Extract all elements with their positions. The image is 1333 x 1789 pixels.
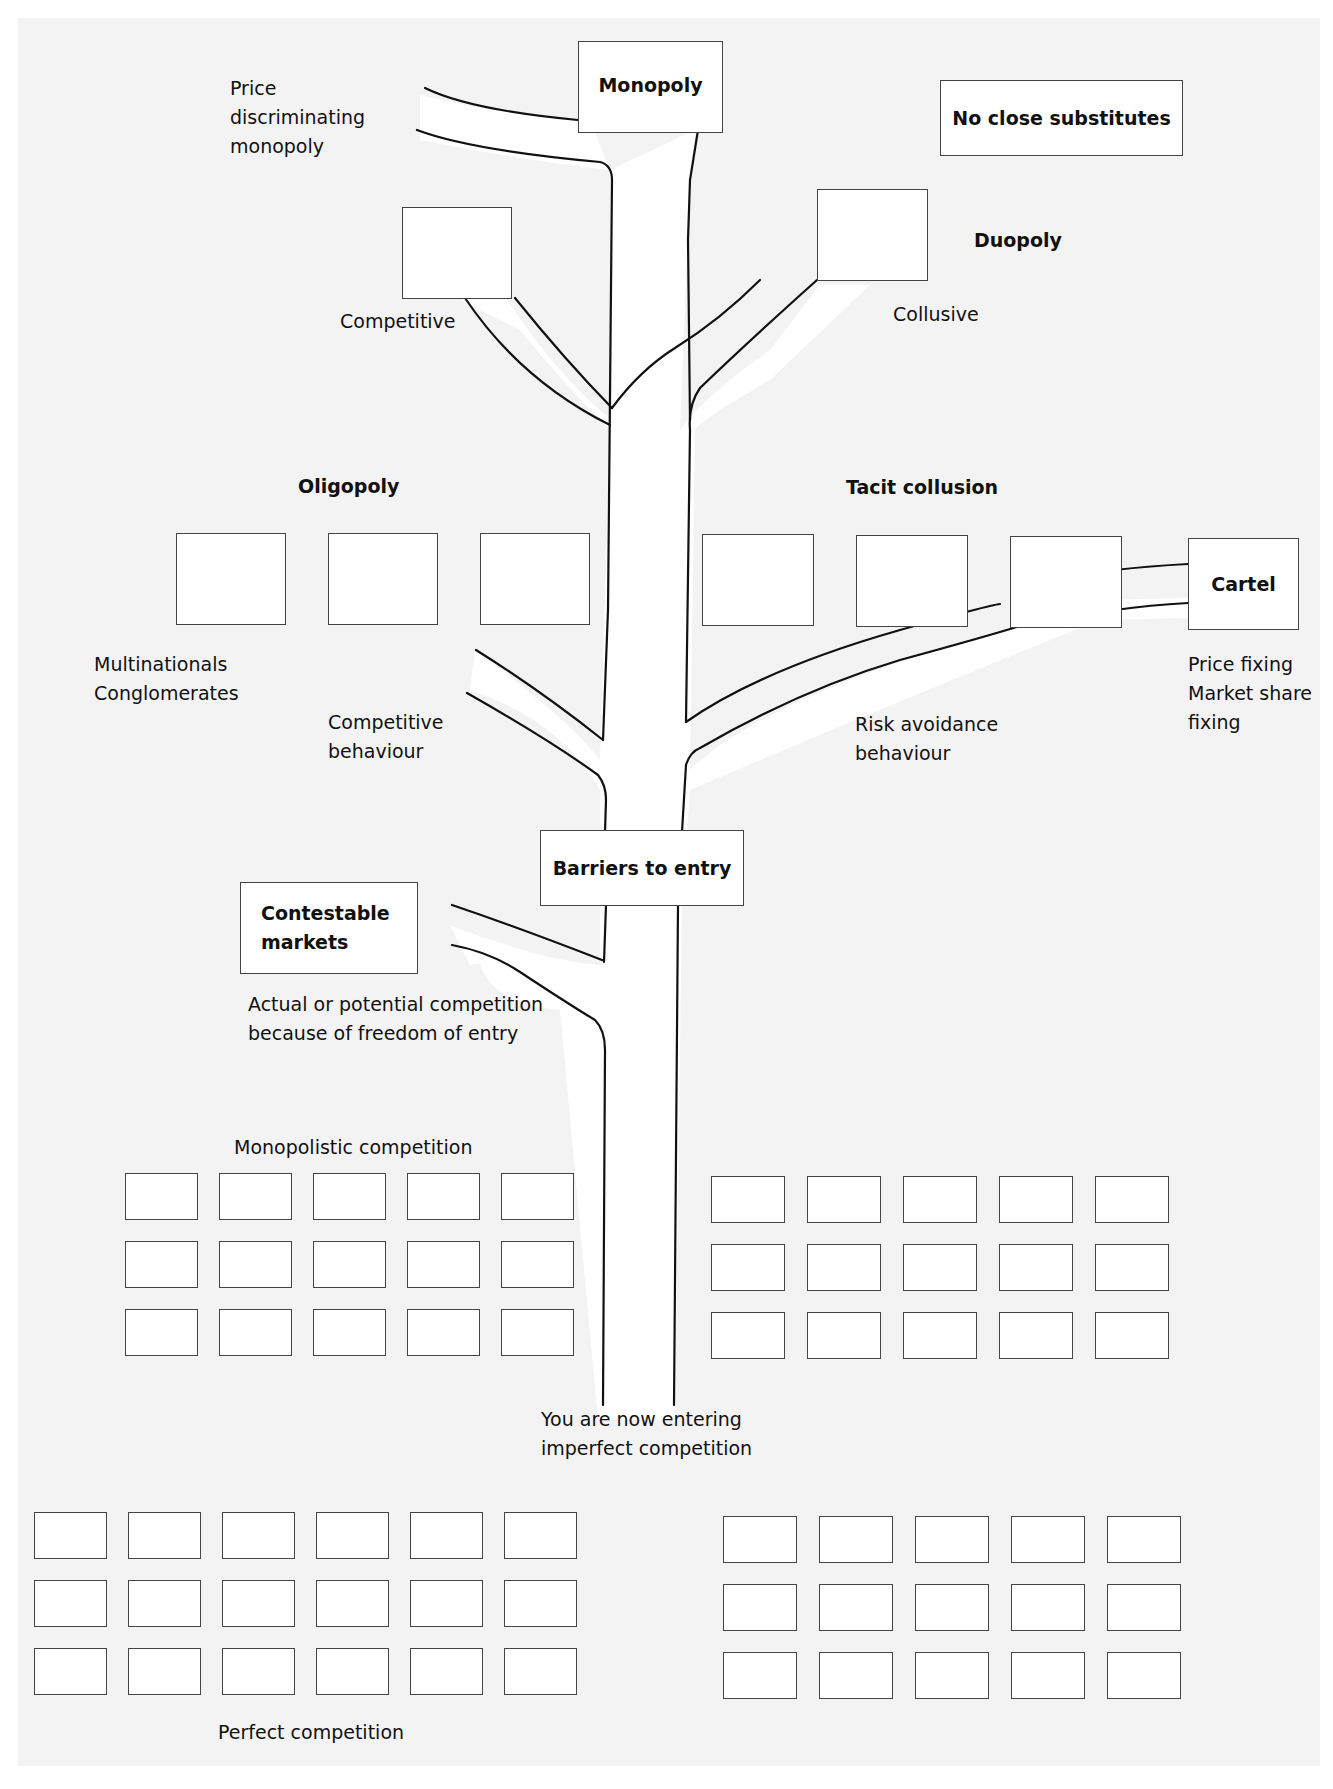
grid-cell: [819, 1584, 893, 1631]
duopoly-competitive-box: [402, 207, 512, 299]
grid-cell: [222, 1512, 295, 1559]
grid-cell: [219, 1309, 292, 1356]
grid-cell: [807, 1176, 881, 1223]
price-discriminating-monopoly-label: Price discriminating monopoly: [230, 74, 365, 161]
grid-cell: [128, 1580, 201, 1627]
grid-cell: [1011, 1516, 1085, 1563]
no-close-substitutes-label: No close substitutes: [952, 107, 1170, 129]
grid-cell: [1011, 1584, 1085, 1631]
grid-cell: [313, 1309, 386, 1356]
contestable-note-label: Actual or potential competition because …: [248, 990, 543, 1048]
grid-cell: [410, 1580, 483, 1627]
grid-cell: [1011, 1652, 1085, 1699]
barriers-to-entry-node: Barriers to entry: [540, 830, 744, 906]
grid-cell: [222, 1648, 295, 1695]
grid-cell: [504, 1648, 577, 1695]
tacit-collusion-box-2: [856, 535, 968, 627]
grid-cell: [407, 1173, 480, 1220]
risk-avoidance-behaviour-label: Risk avoidance behaviour: [855, 710, 998, 768]
grid-cell: [125, 1173, 198, 1220]
grid-cell: [34, 1580, 107, 1627]
cartel-node: Cartel: [1188, 538, 1299, 630]
grid-cell: [903, 1312, 977, 1359]
duopoly-label: Duopoly: [974, 226, 1062, 255]
tacit-collusion-box-3: [1010, 536, 1122, 628]
entering-imperfect-competition-label: You are now entering imperfect competiti…: [541, 1405, 752, 1463]
oligopoly-box-3: [480, 533, 590, 625]
grid-cell: [410, 1648, 483, 1695]
grid-cell: [1107, 1516, 1181, 1563]
grid-cell: [504, 1512, 577, 1559]
grid-cell: [819, 1516, 893, 1563]
monopolistic-right-grid: [711, 1176, 1169, 1359]
grid-cell: [915, 1584, 989, 1631]
grid-cell: [723, 1516, 797, 1563]
grid-cell: [410, 1512, 483, 1559]
grid-cell: [903, 1244, 977, 1291]
oligopoly-label: Oligopoly: [298, 472, 399, 501]
tacit-collusion-box-1: [702, 534, 814, 626]
grid-cell: [407, 1241, 480, 1288]
oligopoly-box-2: [328, 533, 438, 625]
barriers-to-entry-label: Barriers to entry: [553, 857, 732, 879]
perfect-right-grid: [723, 1516, 1181, 1699]
grid-cell: [313, 1173, 386, 1220]
grid-cell: [501, 1241, 574, 1288]
grid-cell: [1095, 1312, 1169, 1359]
grid-cell: [501, 1173, 574, 1220]
grid-cell: [711, 1244, 785, 1291]
grid-cell: [407, 1309, 480, 1356]
perfect-left-grid: [34, 1512, 577, 1695]
grid-cell: [999, 1176, 1073, 1223]
grid-cell: [504, 1580, 577, 1627]
grid-cell: [819, 1652, 893, 1699]
grid-cell: [316, 1648, 389, 1695]
grid-cell: [125, 1241, 198, 1288]
competitive-label: Competitive: [340, 307, 456, 336]
no-close-substitutes-node: No close substitutes: [940, 80, 1183, 156]
tacit-collusion-label: Tacit collusion: [846, 473, 998, 502]
grid-cell: [222, 1580, 295, 1627]
grid-cell: [723, 1584, 797, 1631]
grid-cell: [1107, 1652, 1181, 1699]
grid-cell: [316, 1512, 389, 1559]
cartel-notes-label: Price fixing Market share fixing: [1188, 650, 1312, 737]
grid-cell: [34, 1648, 107, 1695]
duopoly-collusive-box: [817, 189, 928, 281]
grid-cell: [313, 1241, 386, 1288]
grid-cell: [219, 1173, 292, 1220]
oligopoly-box-1: [176, 533, 286, 625]
grid-cell: [1095, 1244, 1169, 1291]
grid-cell: [915, 1516, 989, 1563]
grid-cell: [999, 1244, 1073, 1291]
grid-cell: [125, 1309, 198, 1356]
multinationals-conglomerates-label: Multinationals Conglomerates: [94, 650, 239, 708]
monopolistic-competition-label: Monopolistic competition: [234, 1133, 473, 1162]
monopoly-label: Monopoly: [598, 74, 702, 96]
grid-cell: [501, 1309, 574, 1356]
grid-cell: [807, 1312, 881, 1359]
contestable-markets-node: Contestable markets: [240, 882, 418, 974]
contestable-markets-label: Contestable markets: [261, 899, 390, 957]
grid-cell: [219, 1241, 292, 1288]
grid-cell: [1095, 1176, 1169, 1223]
cartel-label: Cartel: [1211, 573, 1276, 595]
monopolistic-left-grid: [125, 1173, 574, 1356]
grid-cell: [999, 1312, 1073, 1359]
grid-cell: [128, 1648, 201, 1695]
grid-cell: [711, 1312, 785, 1359]
grid-cell: [316, 1580, 389, 1627]
grid-cell: [1107, 1584, 1181, 1631]
collusive-label: Collusive: [893, 300, 979, 329]
grid-cell: [723, 1652, 797, 1699]
grid-cell: [903, 1176, 977, 1223]
grid-cell: [34, 1512, 107, 1559]
grid-cell: [711, 1176, 785, 1223]
grid-cell: [128, 1512, 201, 1559]
monopoly-node: Monopoly: [578, 41, 723, 133]
perfect-competition-label: Perfect competition: [218, 1718, 404, 1747]
competitive-behaviour-label: Competitive behaviour: [328, 708, 444, 766]
grid-cell: [807, 1244, 881, 1291]
grid-cell: [915, 1652, 989, 1699]
